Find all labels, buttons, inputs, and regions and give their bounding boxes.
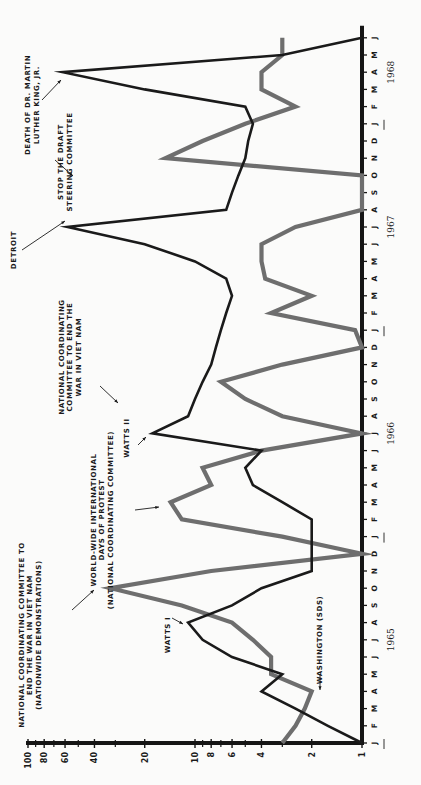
month-label: N <box>370 361 379 367</box>
month-label: A <box>370 207 379 213</box>
month-label: N <box>370 568 379 574</box>
svg-text:NATIONAL COORDINATING: NATIONAL COORDINATING <box>58 299 66 414</box>
month-label: A <box>370 413 379 419</box>
month-label: J <box>370 535 379 539</box>
month-label: A <box>370 620 379 626</box>
svg-text:(NATIONWIDE DEMONSTRATIONS): (NATIONWIDE DEMONSTRATIONS) <box>35 560 43 710</box>
svg-text:NATIONAL COORDINATING COMMITTE: NATIONAL COORDINATING COMMITTEE TO <box>18 542 26 728</box>
month-label: M <box>370 86 379 93</box>
y-tick-label: 80 <box>40 752 49 764</box>
month-label: A <box>370 482 379 488</box>
svg-text:LUTHER KING, JR.: LUTHER KING, JR. <box>33 66 41 144</box>
annotation-detroit: DETROIT <box>10 231 18 269</box>
y-tick-label: 60 <box>61 752 70 764</box>
month-label: S <box>370 190 379 195</box>
month-label: F <box>370 517 379 522</box>
month-label: M <box>370 464 379 471</box>
svg-text:STEERING COMMITTEE: STEERING COMMITTEE <box>66 112 74 211</box>
month-label: F <box>370 310 379 315</box>
month-label: F <box>370 104 379 109</box>
month-label: J <box>370 243 379 247</box>
month-label: J <box>370 329 379 333</box>
month-label: A <box>370 69 379 75</box>
y-tick-label: 40 <box>90 752 99 764</box>
month-label: O <box>370 379 379 385</box>
svg-text:END THE WAR IN VIET NAM: END THE WAR IN VIET NAM <box>26 575 34 695</box>
month-label: J <box>370 449 379 453</box>
month-label: S <box>370 603 379 608</box>
month-label: F <box>370 723 379 728</box>
month-label: D <box>370 138 379 144</box>
svg-text:WAR IN VIET NAM: WAR IN VIET NAM <box>75 318 83 397</box>
annotation-world-wide-protest: WORLD-WIDE INTERNATIONALDAYS OF PROTEST(… <box>90 431 116 609</box>
svg-text:WATTS I: WATTS I <box>164 617 172 653</box>
y-tick-label: 6 <box>228 752 237 758</box>
svg-text:(NATIONAL COORDINATING COMMITT: (NATIONAL COORDINATING COMMITTEE) <box>107 431 115 609</box>
y-tick-label: 20 <box>141 752 150 764</box>
annotation-ncc-1965: NATIONAL COORDINATING COMMITTEE TOEND TH… <box>18 542 44 728</box>
month-label: J <box>370 655 379 659</box>
svg-text:WATTS II: WATTS II <box>123 418 131 457</box>
annotation-watts-ii: WATTS II <box>123 418 131 457</box>
svg-text:DETROIT: DETROIT <box>10 231 18 269</box>
annotation-watts-i: WATTS I <box>164 617 172 653</box>
month-label: O <box>370 172 379 178</box>
month-label: J <box>370 638 379 642</box>
month-label: J <box>370 122 379 126</box>
month-label: S <box>370 396 379 401</box>
svg-text:DEATH OF DR. MARTIN: DEATH OF DR. MARTIN <box>24 55 32 155</box>
y-tick-label: 10 <box>191 752 200 764</box>
y-tick-label: 1 <box>358 752 367 758</box>
month-label: J <box>370 36 379 40</box>
month-label: M <box>370 51 379 58</box>
svg-text:WASHINGTON (SDS): WASHINGTON (SDS) <box>316 596 324 685</box>
annotation-ncc-1966: NATIONAL COORDINATINGCOMMITTEE TO END TH… <box>58 299 83 414</box>
svg-text:STOP THE DRAFT: STOP THE DRAFT <box>57 124 65 200</box>
y-tick-label: 100 <box>24 752 33 769</box>
svg-text:DAYS OF PROTEST: DAYS OF PROTEST <box>98 479 106 560</box>
annotation-mlk: DEATH OF DR. MARTINLUTHER KING, JR. <box>24 55 41 155</box>
month-label: M <box>370 292 379 299</box>
annotation-washington-sds: WASHINGTON (SDS) <box>316 596 324 685</box>
y-tick-label: 4 <box>257 752 266 758</box>
month-label: M <box>370 670 379 677</box>
svg-text:COMMITTEE TO END THE: COMMITTEE TO END THE <box>66 303 74 412</box>
month-label: M <box>370 498 379 505</box>
year-label: 1967 <box>386 215 396 238</box>
year-label: 1968 <box>386 60 396 83</box>
rotated-line-chart: 124681020406080100 JFMAMJJASONDJFMAMJJAS… <box>0 0 421 785</box>
month-label: A <box>370 688 379 694</box>
month-label: J <box>370 225 379 229</box>
y-tick-label: 2 <box>308 752 317 758</box>
month-axis-labels: JFMAMJJASONDJFMAMJJASONDJFMAMJJASONDJFMA… <box>362 36 396 749</box>
year-label: 1966 <box>386 422 396 445</box>
y-tick-label: 8 <box>207 752 216 758</box>
month-label: M <box>370 258 379 265</box>
month-label: J <box>370 741 379 745</box>
month-label: O <box>370 585 379 591</box>
annotation-stop-draft: STOP THE DRAFTSTEERING COMMITTEE <box>57 112 74 211</box>
month-label: M <box>370 705 379 712</box>
year-label: 1965 <box>386 628 396 651</box>
month-label: D <box>370 344 379 350</box>
svg-text:WORLD-WIDE INTERNATIONAL: WORLD-WIDE INTERNATIONAL <box>90 453 98 586</box>
month-label: A <box>370 276 379 282</box>
month-label: N <box>370 155 379 161</box>
